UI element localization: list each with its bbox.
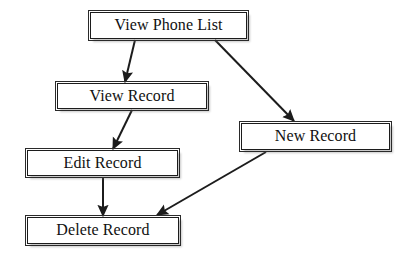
node-label-new-record: New Record — [275, 128, 356, 145]
edge-view-phone-list-to-view-record — [125, 40, 135, 82]
node-label-view-record: View Record — [90, 88, 175, 105]
node-delete-record[interactable]: Delete Record — [27, 217, 179, 244]
node-label-view-phone-list: View Phone List — [114, 17, 222, 34]
node-view-phone-list[interactable]: View Phone List — [90, 12, 247, 39]
edge-view-phone-list-to-new-record — [215, 40, 294, 121]
node-new-record[interactable]: New Record — [241, 123, 390, 150]
node-label-edit-record: Edit Record — [64, 155, 142, 172]
edge-view-record-to-edit-record — [113, 110, 132, 149]
flow-diagram: View Phone List View Record New Record E… — [0, 0, 409, 259]
node-view-record[interactable]: View Record — [57, 83, 207, 109]
node-label-delete-record: Delete Record — [56, 222, 149, 239]
node-edit-record[interactable]: Edit Record — [27, 150, 178, 176]
